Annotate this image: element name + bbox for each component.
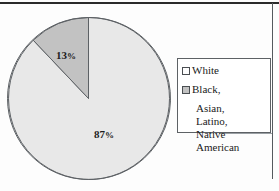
legend-box: White Black, Asian, Latino, Native Ameri… — [177, 58, 271, 133]
slice-label-minority: 13% — [56, 49, 76, 61]
slice-value-white: 87 — [94, 128, 105, 140]
legend-swatch-white-icon — [182, 67, 190, 75]
pie-svg — [6, 16, 171, 181]
frame-right-rule — [272, 3, 273, 179]
slice-label-white: 87% — [94, 128, 114, 140]
legend-label-minority: Black, — [192, 83, 220, 96]
percent-sign-white: % — [105, 130, 114, 140]
legend-item-minority: Black, — [182, 83, 267, 96]
frame-top-rule — [0, 2, 279, 4]
percent-sign-minority: % — [67, 51, 76, 61]
pie-chart: 13% 87% — [6, 16, 171, 181]
pie-chart-figure: 13% 87% White Black, Asian, Latino, Nati… — [0, 0, 279, 191]
legend-item-white: White — [182, 64, 267, 77]
legend-label-minority-line4: Native American — [182, 128, 267, 154]
legend-label-white: White — [192, 64, 219, 77]
legend-swatch-minority-icon — [182, 86, 190, 94]
slice-value-minority: 13 — [56, 49, 67, 61]
legend-label-minority-line3: Latino, — [182, 115, 267, 128]
legend-label-minority-line2: Asian, — [182, 102, 267, 115]
